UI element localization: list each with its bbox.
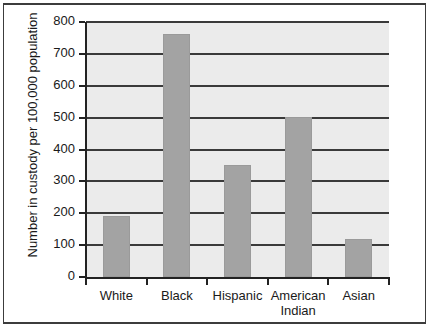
bar-hispanic [224, 165, 251, 277]
y-tick-label-700: 700 [35, 45, 75, 60]
bar-white [103, 216, 130, 277]
x-tick-mark-origin [85, 279, 87, 285]
gridline-500 [86, 117, 389, 119]
frame-border-right [425, 3, 426, 324]
y-tick-mark-0 [79, 276, 85, 278]
x-tick-mark-1 [206, 279, 208, 285]
gridline-400 [86, 149, 389, 151]
y-tick-label-800: 800 [35, 13, 75, 28]
bar-black [163, 34, 190, 277]
bar-american-indian [285, 117, 312, 277]
y-tick-label-600: 600 [35, 77, 75, 92]
y-tick-mark-600 [79, 85, 85, 87]
x-tick-mark-0 [146, 279, 148, 285]
x-tick-label-asian: Asian [314, 288, 404, 303]
y-axis-line [85, 22, 87, 279]
y-tick-label-0: 0 [35, 268, 75, 283]
frame-border-top [3, 3, 426, 5]
frame-border-left [3, 3, 4, 324]
x-tick-mark-4 [388, 279, 390, 285]
y-tick-label-500: 500 [35, 109, 75, 124]
gridline-600 [86, 85, 389, 87]
y-tick-mark-300 [79, 180, 85, 182]
y-tick-mark-100 [79, 244, 85, 246]
frame-border-bottom [3, 322, 426, 324]
y-tick-label-100: 100 [35, 236, 75, 251]
gridline-700 [86, 53, 389, 55]
y-tick-mark-700 [79, 53, 85, 55]
x-tick-mark-3 [327, 279, 329, 285]
x-axis-line [85, 277, 390, 279]
gridline-800 [86, 21, 389, 23]
y-tick-mark-800 [79, 21, 85, 23]
chart-figure: Number in custody per 100,000 population… [0, 0, 429, 329]
bar-asian [345, 239, 372, 277]
y-tick-label-200: 200 [35, 204, 75, 219]
x-tick-mark-2 [267, 279, 269, 285]
y-tick-mark-400 [79, 149, 85, 151]
y-tick-label-400: 400 [35, 141, 75, 156]
plot-area [86, 22, 389, 277]
y-tick-mark-500 [79, 117, 85, 119]
y-tick-label-300: 300 [35, 172, 75, 187]
y-tick-mark-200 [79, 212, 85, 214]
